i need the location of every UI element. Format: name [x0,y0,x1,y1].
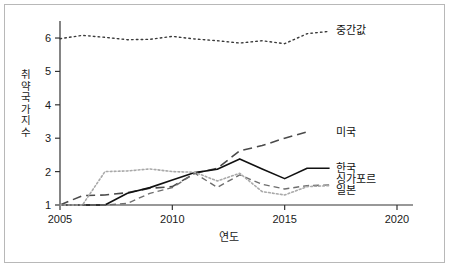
series-line-한국 [60,159,330,205]
series-labels: 중간값미국한국싱가포르일본 [336,24,376,196]
figure-frame: 취약국가지수 123456 2005201020152020 중간값미국한국싱가… [4,4,445,263]
series-label-미국: 미국 [336,126,356,138]
series-line-일본 [60,169,330,205]
y-tick-label: 3 [45,132,51,144]
x-tick-label: 2020 [385,213,409,225]
x-tick-label: 2010 [160,213,184,225]
series-line-싱가포르 [60,173,330,205]
series-line-미국 [60,132,307,205]
series-label-중간값: 중간값 [336,24,366,36]
y-tick-label: 4 [45,99,51,111]
series-label-일본: 일본 [336,183,356,196]
y-tick-label: 2 [45,166,51,178]
x-axis-title: 연도 [219,231,239,243]
x-axis-ticks: 2005201020152020 [48,205,409,225]
y-axis-ticks: 123456 [45,32,60,211]
x-tick-label: 2015 [272,213,296,225]
y-tick-label: 5 [45,65,51,77]
line-chart: 123456 2005201020152020 중간값미국한국싱가포르일본 연도 [5,5,446,264]
y-tick-label: 6 [45,32,51,44]
series-line-중간값 [60,31,330,43]
series-lines [60,31,330,205]
x-tick-label: 2005 [48,213,72,225]
y-tick-label: 1 [45,199,51,211]
